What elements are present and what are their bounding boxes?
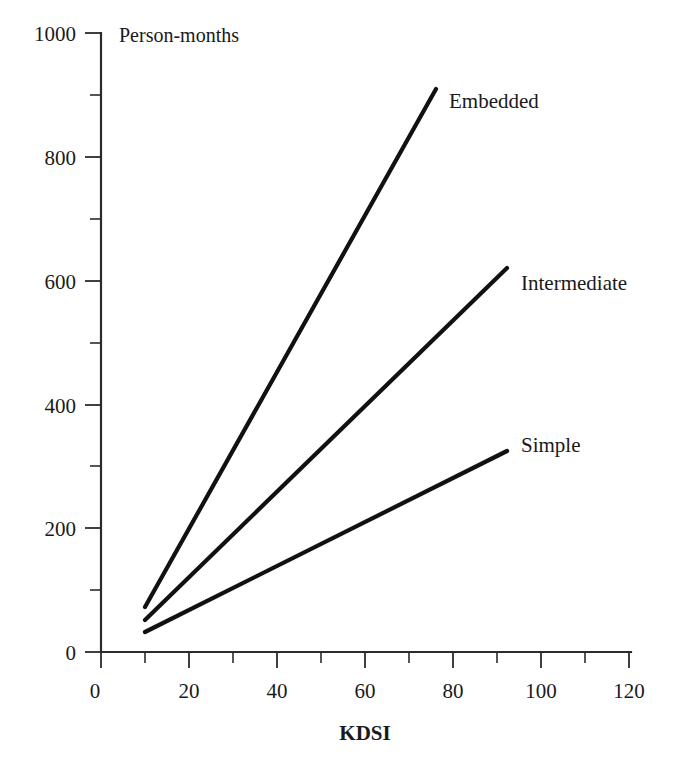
x-tick-label-20: 20 [179, 679, 200, 703]
y-tick-label-400: 400 [45, 394, 77, 418]
chart-page: 1000 800 600 400 200 0 0 [0, 0, 684, 767]
series-line-embedded [145, 89, 436, 607]
series-label-simple: Simple [521, 433, 581, 457]
series-line-intermediate [145, 268, 507, 620]
y-tick-label-800: 800 [45, 146, 77, 170]
y-tick-labels: 1000 800 600 400 200 0 [34, 22, 76, 665]
series-labels: Embedded Intermediate Simple [449, 89, 627, 457]
x-major-ticks [101, 652, 629, 668]
series-label-embedded: Embedded [449, 89, 539, 113]
x-tick-label-40: 40 [267, 679, 288, 703]
y-tick-label-200: 200 [45, 517, 77, 541]
y-minor-ticks [90, 95, 101, 590]
cocomo-effort-chart: 1000 800 600 400 200 0 0 [0, 0, 684, 767]
y-tick-label-600: 600 [45, 270, 77, 294]
series-lines [145, 89, 507, 632]
y-tick-label-0: 0 [66, 641, 77, 665]
series-line-simple [145, 451, 507, 632]
series-label-intermediate: Intermediate [521, 271, 627, 295]
x-tick-label-80: 80 [443, 679, 464, 703]
x-tick-label-0: 0 [90, 679, 101, 703]
x-axis-caption: KDSI [339, 721, 390, 745]
y-tick-label-1000: 1000 [34, 22, 76, 46]
y-axis-caption: Person-months [119, 24, 239, 46]
x-tick-labels: 0 20 40 60 80 100 120 [90, 679, 645, 703]
x-tick-label-120: 120 [613, 679, 645, 703]
x-tick-label-100: 100 [525, 679, 557, 703]
x-tick-label-60: 60 [355, 679, 376, 703]
axes-group [101, 33, 631, 652]
